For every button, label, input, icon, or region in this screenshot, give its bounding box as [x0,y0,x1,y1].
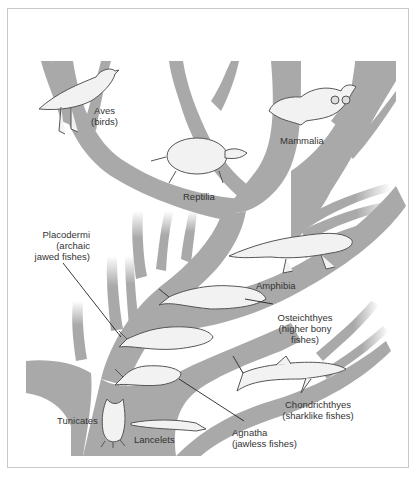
label-placodermi: Placodermi(archaicjawed fishes) [28,229,90,262]
label-amphibia: Amphibia [256,280,296,291]
label-lancelets: Lancelets [134,434,175,445]
label-mammalia: Mammalia [280,135,324,146]
label-osteichthyes: Osteichthyes(higher bonyfishes) [275,312,335,345]
label-reptilia: Reptilia [183,191,215,202]
label-tunicates: Tunicates [57,415,98,426]
label-agnatha: Agnatha(jawless fishes) [232,427,297,449]
label-chondrichthyes: Chondrichthyes(sharklike fishes) [270,399,366,421]
label-aves: Aves(birds) [91,105,118,127]
diagram-frame: Aves(birds) Mammalia Reptilia Placodermi… [7,8,409,468]
